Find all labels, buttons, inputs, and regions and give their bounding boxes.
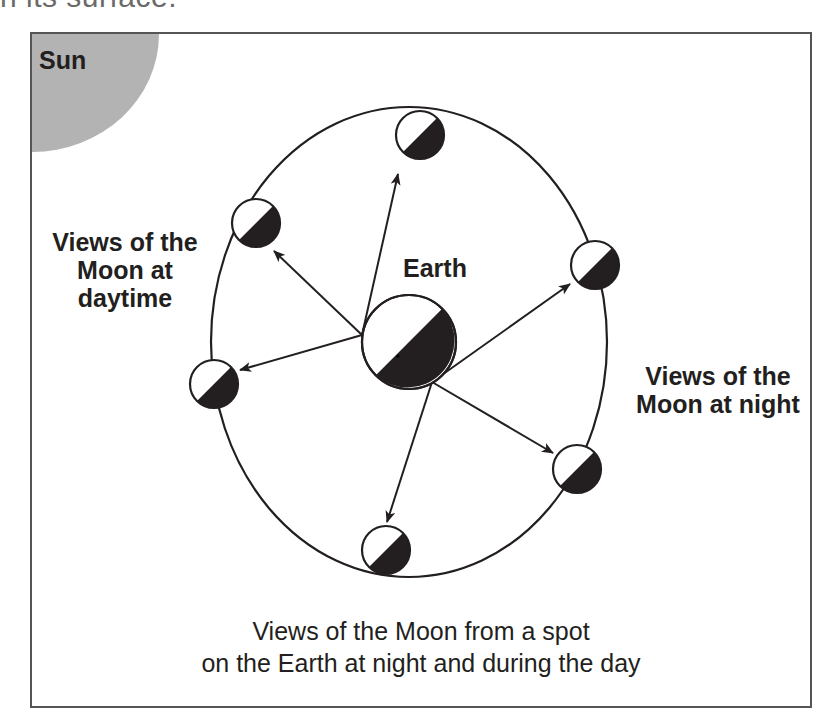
night-label-line: Moon at night (627, 390, 809, 418)
daytime-label-line: Views of the (36, 228, 214, 256)
daytime-views-label: Views of the Moon at daytime (36, 228, 214, 312)
diagram-caption: Views of the Moon from a spot on the Ear… (32, 615, 810, 679)
caption-line: on the Earth at night and during the day (32, 647, 810, 679)
moon-upper-right-icon (571, 241, 619, 289)
moon-top-icon (396, 111, 444, 159)
earth-icon (362, 295, 456, 389)
diagram-frame: Sun Earth Views of the Moon at daytime V… (30, 32, 812, 708)
arrow-to-upper-left (274, 251, 362, 335)
daytime-label-line: daytime (36, 284, 214, 312)
arrow-to-left (240, 335, 362, 370)
sun-label: Sun (39, 46, 86, 74)
arrow-to-bottom (387, 382, 432, 522)
cropped-header-text: n its surface. (0, 0, 177, 14)
night-views-label: Views of the Moon at night (627, 362, 809, 418)
earth-label: Earth (403, 254, 467, 282)
caption-line: Views of the Moon from a spot (32, 615, 810, 647)
daytime-label-line: Moon at (36, 256, 214, 284)
moon-lower-right-icon (553, 445, 601, 493)
arrow-to-lower-right (432, 382, 553, 453)
moon-upper-left-icon (232, 199, 280, 247)
moon-left-icon (190, 360, 238, 408)
night-label-line: Views of the (627, 362, 809, 390)
observer-spot (396, 354, 399, 357)
moon-bottom-icon (362, 526, 410, 574)
